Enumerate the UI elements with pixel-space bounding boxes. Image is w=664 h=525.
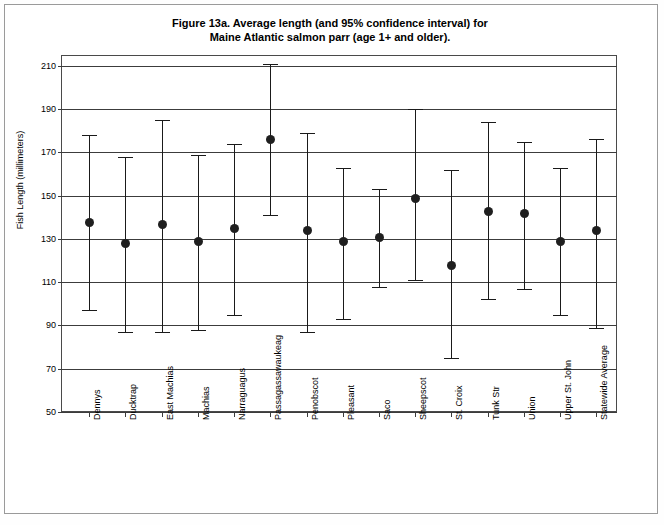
confidence-interval-lower-cap [408, 280, 423, 281]
confidence-interval-upper-cap [300, 133, 315, 134]
y-tick-label: 150 [30, 192, 56, 201]
mean-marker [447, 261, 456, 270]
y-tick-label: 90 [30, 321, 56, 330]
x-tick-label: East Machias [166, 366, 175, 420]
confidence-interval-upper-cap [517, 142, 532, 143]
mean-marker [339, 237, 348, 246]
x-tick-label: Statewide Average [600, 345, 609, 420]
x-tick-mark [125, 412, 126, 417]
chart-title: Figure 13a. Average length (and 95% conf… [60, 16, 600, 44]
confidence-interval-upper-cap [553, 168, 568, 169]
confidence-interval-lower-cap [82, 310, 97, 311]
y-tick-label: 210 [30, 62, 56, 71]
mean-marker [303, 226, 312, 235]
confidence-interval-lower-cap [444, 358, 459, 359]
x-tick-label: Pleasant [347, 385, 356, 420]
mean-marker [266, 135, 275, 144]
x-tick-label: Passagassawaukeag [274, 335, 283, 420]
confidence-interval-upper-cap [336, 168, 351, 169]
confidence-interval-lower-cap [336, 319, 351, 320]
confidence-interval-lower-cap [372, 287, 387, 288]
x-tick-mark [198, 412, 199, 417]
x-tick-mark [307, 412, 308, 417]
y-tick-label: 70 [30, 365, 56, 374]
x-tick-mark [560, 412, 561, 417]
confidence-interval-upper-cap [82, 135, 97, 136]
y-tick-label: 50 [30, 408, 56, 417]
y-axis-tick-labels: 507090110130150170190210 [24, 55, 56, 412]
x-tick-label: Tunk Str [492, 386, 501, 420]
x-tick-label: Ducktrap [129, 384, 138, 420]
confidence-interval-lower-cap [227, 315, 242, 316]
confidence-interval-upper-cap [118, 157, 133, 158]
chart-title-line-1: Figure 13a. Average length (and 95% conf… [60, 16, 600, 30]
confidence-interval-upper-cap [408, 109, 423, 110]
x-tick-mark [596, 412, 597, 417]
x-tick-label: Sheepscot [419, 377, 428, 420]
confidence-interval-upper-cap [263, 64, 278, 65]
x-tick-mark [488, 412, 489, 417]
confidence-interval-lower-cap [191, 330, 206, 331]
confidence-interval-lower-cap [263, 215, 278, 216]
x-tick-mark [415, 412, 416, 417]
x-tick-label: Union [528, 396, 537, 420]
confidence-interval-upper-cap [227, 144, 242, 145]
x-tick-mark [162, 412, 163, 417]
confidence-interval-lower-cap [553, 315, 568, 316]
mean-marker [411, 194, 420, 203]
mean-marker [230, 224, 239, 233]
confidence-interval-lower-cap [300, 332, 315, 333]
x-tick-mark [343, 412, 344, 417]
x-axis-labels: DennysDucktrapEast MachiasMachiasNarragu… [61, 418, 617, 518]
data-series-layer [61, 55, 617, 412]
chart-title-line-2: Maine Atlantic salmon parr (age 1+ and o… [60, 30, 600, 44]
y-axis-title: Fish Length (millimeters) [15, 100, 25, 260]
mean-marker [375, 233, 384, 242]
confidence-interval-lower-cap [589, 328, 604, 329]
mean-marker [85, 218, 94, 227]
confidence-interval-lower-cap [155, 332, 170, 333]
mean-marker [520, 209, 529, 218]
y-tick-label: 110 [30, 278, 56, 287]
confidence-interval-upper-cap [589, 139, 604, 140]
y-tick-label: 170 [30, 148, 56, 157]
chart-page: Figure 13a. Average length (and 95% conf… [0, 0, 664, 525]
x-tick-label: Upper St. John [564, 360, 573, 420]
mean-marker [592, 226, 601, 235]
confidence-interval-upper-cap [191, 155, 206, 156]
mean-marker [484, 207, 493, 216]
x-tick-mark [234, 412, 235, 417]
mean-marker [158, 220, 167, 229]
confidence-interval-upper-cap [372, 189, 387, 190]
x-tick-label: Machias [202, 386, 211, 420]
x-tick-mark [451, 412, 452, 417]
confidence-interval-upper-cap [481, 122, 496, 123]
x-tick-mark [270, 412, 271, 417]
y-tick-label: 130 [30, 235, 56, 244]
x-tick-mark [524, 412, 525, 417]
y-tick-mark [58, 412, 62, 413]
x-tick-mark [89, 412, 90, 417]
x-tick-label: Dennys [93, 389, 102, 420]
mean-marker [194, 237, 203, 246]
confidence-interval-lower-cap [481, 299, 496, 300]
x-tick-label: Penobscot [311, 377, 320, 420]
y-tick-label: 190 [30, 105, 56, 114]
x-tick-label: Narraguagus [238, 368, 247, 420]
confidence-interval-upper-cap [155, 120, 170, 121]
x-tick-label: Saco [383, 399, 392, 420]
mean-marker [121, 239, 130, 248]
confidence-interval-lower-cap [517, 289, 532, 290]
x-tick-label: St. Croix [455, 385, 464, 420]
confidence-interval-lower-cap [118, 332, 133, 333]
mean-marker [556, 237, 565, 246]
confidence-interval-upper-cap [444, 170, 459, 171]
x-tick-mark [379, 412, 380, 417]
